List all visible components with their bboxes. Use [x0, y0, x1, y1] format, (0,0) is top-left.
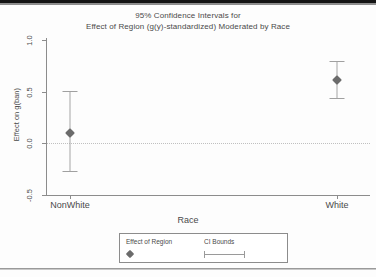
error-bar-lower-cap-nonwhite: [63, 171, 78, 172]
y-axis-tick-3: [42, 143, 46, 144]
legend-marker-diamond-icon: [126, 250, 134, 258]
chart-title-line-2: Effect of Region (g(y)-standardized) Mod…: [0, 21, 376, 32]
data-point-nonwhite: [65, 128, 75, 138]
x-axis-line: [46, 195, 370, 196]
y-axis-tick-label-3: 0.0: [25, 133, 34, 155]
error-bar-upper-cap-nonwhite: [63, 91, 78, 92]
legend-ci-line-icon: [204, 254, 244, 255]
legend-label-effect-of-region: Effect of Region: [126, 238, 172, 245]
chart-title-line-1: 95% Confidence Intervals for: [0, 10, 376, 21]
x-axis-tick-label-white: White: [325, 200, 348, 210]
y-axis-tick-label-1: 1.0: [25, 30, 34, 52]
y-axis-line: [46, 38, 47, 196]
legend-ci-left-cap-icon: [204, 251, 205, 258]
legend-ci-right-cap-icon: [244, 251, 245, 258]
chart-title: 95% Confidence Intervals for Effect of R…: [0, 10, 376, 32]
y-axis-tick-label-4: -0.5: [25, 183, 34, 209]
x-axis-tick-label-nonwhite: NonWhite: [50, 200, 90, 210]
y-axis-tick-label-2: 0.5: [25, 82, 34, 104]
legend-label-ci-bounds: CI Bounds: [204, 238, 234, 245]
chart-legend: Effect of Region CI Bounds: [119, 233, 288, 263]
error-bar-upper-cap-white: [330, 61, 345, 62]
x-axis-tick-white: [337, 195, 338, 199]
x-axis-tick-nonwhite: [70, 195, 71, 199]
zero-reference-line: [47, 143, 370, 145]
y-axis-tick-1: [42, 40, 46, 41]
error-bar-lower-cap-white: [330, 98, 345, 99]
data-point-white: [332, 75, 342, 85]
top-border-shadow: [0, 3, 376, 5]
x-axis-label: Race: [0, 215, 376, 225]
y-axis-label: Effect on g(ban): [12, 88, 21, 141]
chart-figure: 95% Confidence Intervals for Effect of R…: [0, 0, 376, 277]
bottom-border-rule-shadow: [0, 269, 376, 270]
y-axis-tick-2: [42, 92, 46, 93]
